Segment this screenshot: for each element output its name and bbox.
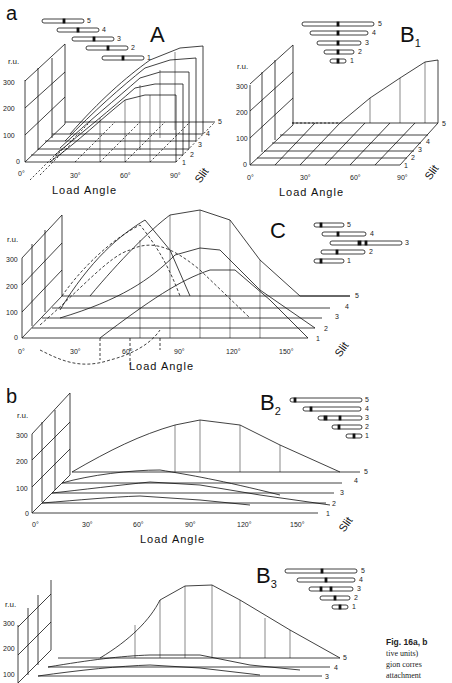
b1-slit-num: 1 — [404, 162, 408, 169]
figure-graphics — [0, 0, 452, 683]
panel-title-b1: B1 — [400, 22, 421, 49]
panel-b3-legend — [285, 569, 357, 609]
a-legend-num: 1 — [147, 54, 151, 61]
a-slit-num: 4 — [206, 130, 210, 137]
b3-slit-num: 3 — [325, 673, 329, 680]
caption-title: Fig. 16a, b — [386, 637, 428, 647]
b2-slit-num: 1 — [326, 510, 330, 517]
a-y-tick: 0 — [16, 158, 20, 165]
panel-title-b3-text: B — [256, 563, 271, 588]
b3-legend-num: 4 — [359, 576, 363, 583]
panel-title-c: C — [270, 218, 286, 244]
caption-line: tive units) — [386, 648, 452, 659]
b3-slit-num: 4 — [334, 664, 338, 671]
b1-y-tick: 300 — [236, 83, 248, 90]
c-y-tick: 300 — [6, 256, 18, 263]
c-legend-num: 1 — [347, 257, 351, 264]
a-legend-num: 3 — [117, 35, 121, 42]
a-x-tick: 30° — [70, 172, 81, 179]
b2-slit-num: 5 — [364, 468, 368, 475]
panel-b1-legend — [302, 22, 374, 63]
b1-y-tick: 0 — [243, 161, 247, 168]
b3-legend-num: 5 — [361, 567, 365, 574]
panel-c-legend — [314, 223, 402, 263]
b2-y-tick: 200 — [16, 458, 28, 465]
c-x-tick: 60° — [122, 348, 133, 355]
panel-title-b1-text: B — [400, 22, 415, 47]
c-y-tick: 100 — [6, 309, 18, 316]
panel-title-b3: B3 — [256, 563, 277, 590]
a-x-tick: 90° — [170, 172, 181, 179]
b3-y-axis-label: r.u. — [5, 600, 16, 609]
panel-a-plot — [25, 44, 215, 180]
b1-legend-num: 2 — [358, 48, 362, 55]
c-legend-num: 2 — [369, 248, 373, 255]
a-slit-num: 3 — [198, 141, 202, 148]
caption-line: attachment — [386, 670, 452, 681]
b3-y-tick: 100 — [3, 671, 15, 678]
c-y-tick: 0 — [14, 334, 18, 341]
panel-b2-legend — [290, 398, 362, 438]
panel-b3-plot — [18, 580, 340, 683]
panel-title-c-text: C — [270, 218, 286, 243]
c-legend-num: 4 — [370, 230, 374, 237]
b2-x-tick: 120° — [237, 521, 251, 528]
a-y-tick: 100 — [3, 132, 15, 139]
b1-legend-num: 1 — [350, 57, 354, 64]
b1-slit-num: 4 — [426, 138, 430, 145]
a-slit-num: 1 — [182, 159, 186, 166]
b1-slit-num: 3 — [418, 146, 422, 153]
b2-x-tick: 0° — [32, 521, 39, 528]
b1-x-tick: 30° — [300, 174, 311, 181]
a-y-tick: 300 — [3, 79, 15, 86]
c-legend-num: 5 — [347, 221, 351, 228]
a-y-axis-label: r.u. — [8, 57, 19, 66]
panel-title-b2-text: B — [260, 390, 275, 415]
a-legend-num: 4 — [102, 26, 106, 33]
c-slit-num: 5 — [355, 292, 359, 299]
b2-x-axis-label: Load Angle — [140, 533, 205, 545]
b2-y-tick: 0 — [25, 510, 29, 517]
b2-x-tick: 150° — [290, 521, 304, 528]
c-x-tick: 0° — [18, 348, 25, 355]
a-x-tick: 0° — [18, 170, 25, 177]
panel-title-b2: B2 — [260, 390, 281, 417]
b3-y-tick: 300 — [3, 620, 15, 627]
b3-legend-num: 1 — [352, 603, 356, 610]
panel-a-legend — [42, 19, 144, 60]
b2-legend-num: 4 — [365, 405, 369, 412]
b2-y-tick: 300 — [16, 432, 28, 439]
b3-y-tick: 200 — [3, 645, 15, 652]
b1-y-tick: 200 — [236, 109, 248, 116]
c-x-tick: 150° — [279, 348, 293, 355]
b3-legend-num: 3 — [357, 585, 361, 592]
b1-x-tick: 0° — [247, 174, 254, 181]
c-x-tick: 120° — [226, 348, 240, 355]
c-x-tick: 30° — [70, 348, 81, 355]
c-legend-num: 3 — [405, 239, 409, 246]
a-y-tick: 200 — [3, 105, 15, 112]
a-x-axis-label: Load Angle — [52, 184, 117, 196]
section-label-b: b — [6, 385, 17, 408]
panel-title-b3-sub: 3 — [271, 578, 277, 590]
c-slit-num: 2 — [324, 325, 328, 332]
panel-title-a-text: A — [150, 22, 165, 47]
b1-x-axis-label: Load Angle — [279, 186, 344, 198]
c-y-tick: 200 — [6, 283, 18, 290]
a-legend-num: 5 — [87, 17, 91, 24]
b2-legend-num: 1 — [365, 432, 369, 439]
c-slit-num: 1 — [316, 335, 320, 342]
b2-y-axis-label: r.u. — [17, 411, 28, 420]
b2-legend-num: 2 — [365, 423, 369, 430]
caption-line: gion corres — [386, 659, 452, 670]
section-label-a: a — [6, 2, 17, 25]
b2-slit-num: 4 — [354, 477, 358, 484]
b2-x-tick: 90° — [185, 521, 196, 528]
b3-legend-num: 2 — [354, 594, 358, 601]
b1-y-tick: 100 — [236, 135, 248, 142]
a-legend-num: 2 — [131, 44, 135, 51]
a-x-tick: 60° — [120, 172, 131, 179]
a-slit-num: 5 — [218, 118, 222, 125]
b1-slit-num: 2 — [411, 154, 415, 161]
c-x-axis-label: Load Angle — [129, 360, 194, 372]
